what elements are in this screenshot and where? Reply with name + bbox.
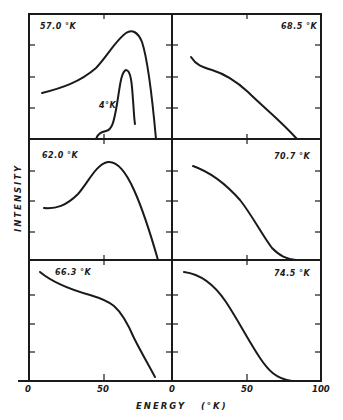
curve-57K (42, 31, 156, 139)
x-tick-50-left: 50 (97, 384, 109, 394)
panel-label-68-5K: 68.5 °K (281, 22, 318, 31)
curve-70-7K (193, 166, 296, 260)
curve-68-5K (191, 57, 297, 139)
x-tick-0-right: 0 (169, 384, 175, 394)
x-axis-label: ENERGY (°K) (136, 401, 228, 411)
x-tick-50-right: 50 (241, 384, 253, 394)
y-axis-label: INTENSITY (13, 164, 23, 232)
x-ticks (104, 14, 247, 381)
x-tick-0-left: 0 (25, 384, 31, 394)
x-tick-100-right: 100 (312, 384, 330, 394)
panel-label-66-3K: 66.3 °K (55, 268, 92, 277)
curve-66-3K (40, 272, 155, 377)
curve-74-5K (184, 272, 292, 381)
panel-label-57K: 57.0 °K (40, 22, 77, 31)
panel-label-4K: 4°K (98, 101, 117, 110)
panel-label-62K: 62.0 °K (42, 151, 79, 160)
panel-label-70-7K: 70.7 °K (274, 152, 311, 161)
curve-62K (44, 162, 158, 260)
spectra-chart: 57.0 °K 4°K 68.5 °K 62.0 °K 70.7 °K 66.3… (0, 0, 343, 420)
panel-label-74-5K: 74.5 °K (274, 269, 311, 278)
